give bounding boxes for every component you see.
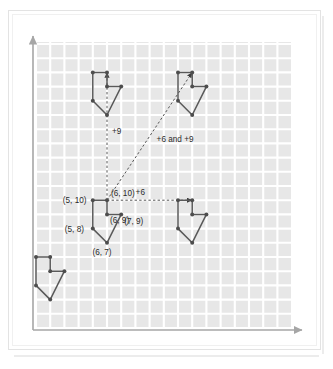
vertex-dot xyxy=(190,241,194,245)
vertex-label-7-9: (7, 9) xyxy=(124,217,143,226)
vertex-dot xyxy=(34,283,38,287)
vertex-label-5-10: (5, 10) xyxy=(63,196,87,205)
vertex-dot xyxy=(91,198,95,202)
vertex-dot xyxy=(105,212,109,216)
vertex-dot xyxy=(91,99,95,103)
vertex-label-5-8: (5, 8) xyxy=(65,225,84,234)
vertex-dot xyxy=(176,198,180,202)
vertex-dot xyxy=(190,70,194,74)
vertex-dot xyxy=(105,198,109,202)
vertex-dot xyxy=(48,269,52,273)
grid xyxy=(36,42,291,328)
vertex-dot xyxy=(119,85,123,89)
translation-label-vertical: +9 xyxy=(112,127,122,136)
vertex-dot xyxy=(34,255,38,259)
vertex-dot xyxy=(190,85,194,89)
vertex-label-6-7: (6, 7) xyxy=(92,248,111,257)
vertex-dot xyxy=(48,298,52,302)
vertex-dot xyxy=(105,85,109,89)
grid-horizontal-lines xyxy=(36,44,291,328)
figure-root: (5, 10)(6, 10)(6, 9)(7, 9)(6, 7)(5, 8) +… xyxy=(0,0,333,369)
vertex-dot xyxy=(190,113,194,117)
vertex-dot xyxy=(176,227,180,231)
vertex-dot xyxy=(176,99,180,103)
translation-label-horizontal: +6 xyxy=(136,188,146,197)
vertex-label-6-10: (6, 10) xyxy=(111,189,135,198)
vertex-dot xyxy=(105,70,109,74)
vertex-dot xyxy=(91,70,95,74)
vertex-dot xyxy=(91,227,95,231)
vertex-dot xyxy=(190,198,194,202)
vertex-dot xyxy=(105,241,109,245)
vertex-dot xyxy=(62,269,66,273)
translation-label-diagonal: +6 and +9 xyxy=(157,135,194,144)
vertex-dot xyxy=(176,70,180,74)
vertex-dot xyxy=(190,212,194,216)
vertex-dot xyxy=(204,212,208,216)
vertex-dot xyxy=(48,255,52,259)
diagram-canvas: (5, 10)(6, 10)(6, 9)(7, 9)(6, 7)(5, 8) +… xyxy=(0,0,333,369)
vertex-dot xyxy=(204,85,208,89)
vertex-dot xyxy=(105,113,109,117)
